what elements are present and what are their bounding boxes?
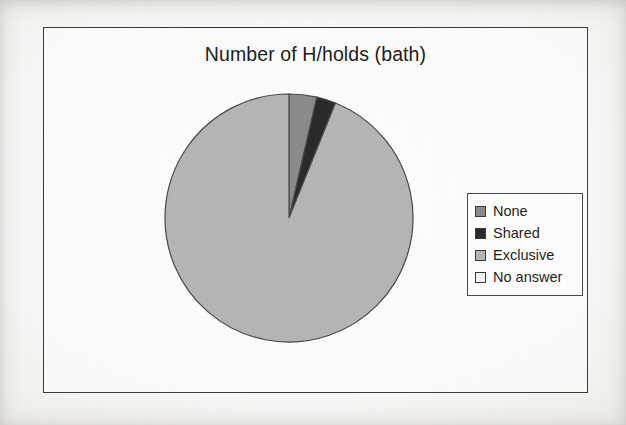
legend-label-shared: Shared (493, 225, 540, 241)
chart-legend: None Shared Exclusive No answer (467, 193, 583, 296)
pie-slice-exclusive[interactable] (165, 94, 413, 342)
legend-swatch-exclusive-icon (475, 250, 486, 261)
legend-label-no-answer: No answer (493, 269, 562, 285)
legend-item-exclusive[interactable]: Exclusive (475, 244, 576, 266)
legend-item-shared[interactable]: Shared (475, 222, 576, 244)
legend-item-none[interactable]: None (475, 200, 576, 222)
legend-label-none: None (493, 203, 528, 219)
legend-item-no-answer[interactable]: No answer (475, 266, 576, 288)
chart-frame: Number of H/holds (bath) None Shared Exc… (43, 27, 588, 393)
legend-swatch-no-answer-icon (475, 272, 486, 283)
pie-slice-group (165, 94, 413, 342)
pie-chart (163, 92, 415, 344)
legend-swatch-shared-icon (475, 228, 486, 239)
legend-swatch-none-icon (475, 206, 486, 217)
scanned-chart-page: Number of H/holds (bath) None Shared Exc… (0, 0, 626, 425)
legend-label-exclusive: Exclusive (493, 247, 554, 263)
